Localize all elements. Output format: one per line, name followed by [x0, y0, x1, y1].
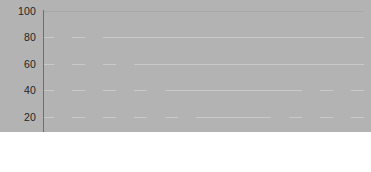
bar-2004 [302, 89, 320, 132]
y-axis-line [43, 10, 44, 132]
bar-chart: 100 80 60 40 20 0 1997 1999 2001 2003 20… [0, 0, 371, 132]
y-tick-label-60: 60 [0, 59, 36, 70]
y-tick-label-20: 20 [0, 112, 36, 123]
bar-1999 [147, 82, 165, 132]
bar-2003 [271, 107, 289, 132]
bar-1998 [116, 49, 134, 132]
y-tick-label-40: 40 [0, 85, 36, 96]
gridline-100 [44, 11, 364, 12]
y-tick-label-100: 100 [0, 6, 36, 17]
bar-2000 [178, 101, 196, 132]
plot-area [44, 11, 364, 132]
bar-2002 [240, 121, 258, 132]
y-tick-label-80: 80 [0, 32, 36, 43]
bar-2005 [333, 89, 351, 132]
bar-1997 [85, 37, 103, 132]
bar-1996 [54, 23, 72, 132]
